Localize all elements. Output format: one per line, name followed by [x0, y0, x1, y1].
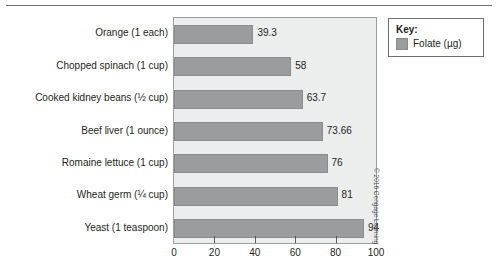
legend-entry: Folate (µg) [396, 38, 477, 50]
category-label: Orange (1 each) [95, 28, 168, 38]
bar [174, 25, 253, 44]
bar [174, 90, 303, 109]
category-label: Yeast (1 teaspoon) [84, 223, 168, 233]
chart-figure: Orange (1 each)Chopped spinach (1 cup)Co… [0, 0, 498, 278]
category-label: Cooked kidney beans (½ cup) [35, 93, 168, 103]
bar [174, 187, 338, 206]
x-axis-tick-label: 40 [249, 248, 260, 258]
bar-value-label: 81 [342, 190, 353, 200]
category-label: Romaine lettuce (1 cup) [62, 158, 168, 168]
x-axis-tick [336, 236, 337, 243]
bar-row [174, 90, 376, 109]
legend: Key: Folate (µg) [388, 18, 484, 57]
bar-row [174, 219, 376, 238]
bar [174, 154, 328, 173]
category-label: Chopped spinach (1 cup) [56, 61, 168, 71]
bar-row [174, 154, 376, 173]
legend-title: Key: [396, 24, 477, 35]
bar-value-label: 76 [332, 158, 343, 168]
legend-entry-label: Folate (µg) [413, 39, 462, 49]
x-axis-tick [214, 236, 215, 243]
x-axis-tick-label: 0 [171, 248, 177, 258]
bar [174, 57, 291, 76]
category-axis-labels: Orange (1 each)Chopped spinach (1 cup)Co… [0, 17, 168, 244]
x-axis-tick [255, 236, 256, 243]
bar-value-label: 73.66 [327, 126, 352, 136]
bar-value-label: 63.7 [307, 93, 326, 103]
category-label: Beef liver (1 ounce) [81, 126, 168, 136]
x-axis-tick [295, 236, 296, 243]
legend-swatch-icon [396, 38, 408, 50]
bar [174, 122, 323, 141]
top-divider [6, 5, 492, 6]
category-label: Wheat germ (¼ cup) [77, 190, 168, 200]
bar-value-label: 39.3 [257, 28, 276, 38]
x-axis-tick-label: 80 [330, 248, 341, 258]
x-axis-tick-label: 60 [290, 248, 301, 258]
x-axis-tick-label: 100 [368, 248, 385, 258]
copyright-notice: © 2016 Cengage Learning [373, 168, 380, 244]
x-axis-tick-label: 20 [209, 248, 220, 258]
bar-value-label: 58 [295, 61, 306, 71]
bar-row [174, 57, 376, 76]
